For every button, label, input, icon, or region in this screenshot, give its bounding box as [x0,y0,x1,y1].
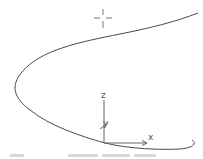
status-text-strip [0,152,203,159]
viewport-canvas[interactable]: z y x [0,0,203,159]
blurred-text-fragment [134,154,156,157]
blurred-text-fragment [102,154,130,157]
blurred-text-fragment [10,154,24,157]
ucs-axis-icon: z y x [100,90,154,146]
z-axis-label: z [101,90,106,100]
blurred-text-fragment [68,154,98,157]
y-axis-label: y [103,118,109,128]
drawing-viewport[interactable]: z y x [0,0,203,159]
x-axis-label: x [148,132,154,142]
crosshair-cursor [94,9,112,28]
parabola-curve[interactable] [15,13,198,149]
